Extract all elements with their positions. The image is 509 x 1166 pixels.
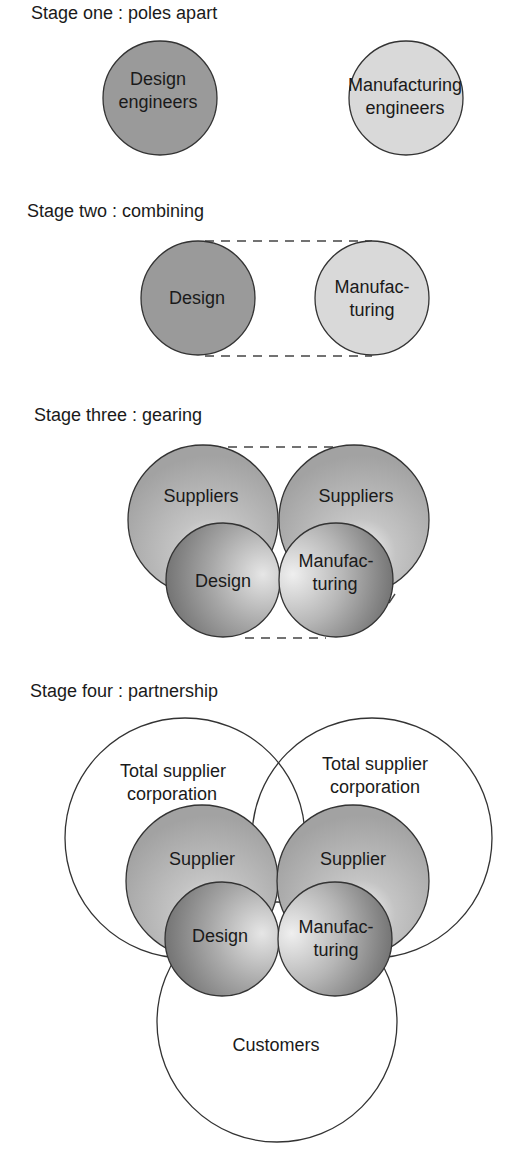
design-engineers-circle: Design engineers — [103, 41, 217, 155]
circle-label: Customers — [232, 1035, 319, 1055]
circle-label: engineers — [118, 92, 197, 112]
circle-label: Suppliers — [318, 486, 393, 506]
circle-label: Design — [130, 69, 186, 89]
manufacturing-engineers-circle: Manufacturing engineers — [348, 41, 463, 155]
design-circle: Design — [141, 241, 255, 355]
diagram-canvas: Stage one : poles apart Design engineers… — [0, 0, 509, 1166]
circle-label: Design — [195, 571, 251, 591]
circle-label: Manufac- — [334, 277, 409, 297]
stage-one-title: Stage one : poles apart — [31, 3, 217, 23]
stage-two-title: Stage two : combining — [27, 201, 204, 221]
circle-label: turing — [313, 940, 358, 960]
stage-four: Stage four : partnership Total supplier … — [30, 681, 492, 1142]
circle-label: Supplier — [320, 849, 386, 869]
manufacturing-circle: Manufac- turing — [278, 882, 392, 996]
circle-label: engineers — [365, 98, 444, 118]
circle-label: Manufac- — [298, 917, 373, 937]
circle-label: Manufac- — [298, 551, 373, 571]
stage-three-title: Stage three : gearing — [34, 405, 202, 425]
circle-label: Total supplier — [322, 754, 428, 774]
stage-three: Stage three : gearing Suppliers Supplier… — [34, 405, 429, 638]
stage-one: Stage one : poles apart Design engineers… — [31, 3, 463, 155]
circle-label: turing — [312, 574, 357, 594]
circle-label: Manufacturing — [348, 75, 462, 95]
circle-label: Supplier — [169, 849, 235, 869]
circle-label: Design — [169, 288, 225, 308]
stage-two: Stage two : combining Design Manufac- tu… — [27, 201, 429, 356]
circle-label: corporation — [330, 777, 420, 797]
manufacturing-circle: Manufac- turing — [315, 241, 429, 355]
circle-label: turing — [349, 300, 394, 320]
manufacturing-circle: Manufac- turing — [279, 523, 393, 637]
circle-label: Total supplier — [120, 761, 226, 781]
stage-four-title: Stage four : partnership — [30, 681, 218, 701]
circle-label: Design — [192, 926, 248, 946]
design-circle: Design — [166, 523, 280, 637]
design-circle: Design — [165, 882, 279, 996]
circle-label: corporation — [127, 784, 217, 804]
circle-label: Suppliers — [163, 486, 238, 506]
